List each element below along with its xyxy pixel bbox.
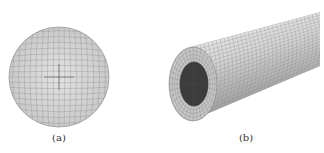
panel-a-disk-mesh <box>1 19 117 135</box>
mesh-figure <box>0 0 324 153</box>
panel-b-tube-mesh <box>169 12 324 121</box>
caption-a: (a) <box>52 132 66 143</box>
caption-b: (b) <box>239 132 253 143</box>
